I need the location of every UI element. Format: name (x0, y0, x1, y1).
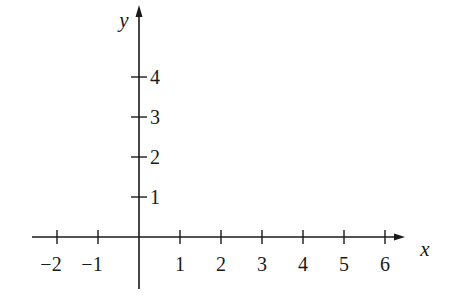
x-tick-label: −2 (40, 253, 61, 275)
y-tick-label: 1 (150, 186, 160, 208)
x-tick-label: 3 (257, 253, 267, 275)
ticks (57, 77, 385, 244)
x-tick-label: 2 (216, 253, 226, 275)
y-axis-label: y (117, 8, 129, 32)
y-tick-label: 2 (150, 146, 160, 168)
x-tick-label: 1 (175, 253, 185, 275)
x-tick-label: 4 (298, 253, 308, 275)
x-tick-label: 6 (380, 253, 390, 275)
x-axis-label: x (419, 237, 430, 261)
y-tick-label: 3 (150, 106, 160, 128)
x-axis-arrow-icon (394, 234, 405, 241)
axes (32, 5, 405, 289)
tick-labels: −2−11234561234xy (40, 8, 430, 275)
y-axis-arrow-icon (136, 5, 143, 17)
x-tick-label: 5 (339, 253, 349, 275)
x-tick-label: −1 (81, 253, 102, 275)
coordinate-plane: −2−11234561234xy (0, 0, 475, 302)
y-tick-label: 4 (150, 66, 160, 88)
